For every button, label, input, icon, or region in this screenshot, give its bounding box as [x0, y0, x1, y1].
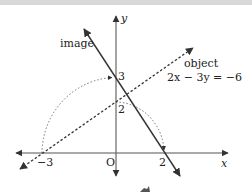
origin-label: O	[106, 156, 115, 169]
image-label: image	[60, 37, 94, 50]
rotation-arc-outer	[42, 78, 112, 154]
tick-y-3: 3	[118, 70, 125, 83]
tick-x-2: 2	[159, 156, 166, 169]
object-line	[20, 48, 193, 169]
object-label: object	[184, 57, 219, 70]
rotation-diagram: y x O −3 2 3 2 image object 2x − 3y = −6	[0, 0, 252, 194]
page-curl-icon	[140, 186, 150, 192]
y-axis-label: y	[120, 12, 128, 25]
x-axis-label: x	[221, 157, 228, 170]
object-equation: 2x − 3y = −6	[167, 71, 242, 84]
tick-y-2: 2	[118, 103, 125, 116]
image-line	[84, 29, 180, 176]
tick-x-neg3: −3	[37, 156, 53, 169]
